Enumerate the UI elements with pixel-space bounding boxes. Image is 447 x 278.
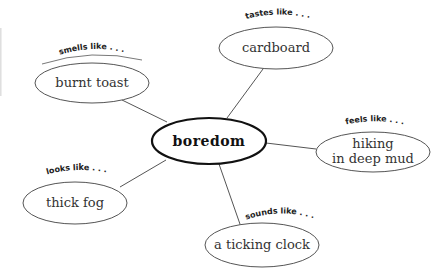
edge-tastes [227, 69, 263, 118]
prompt-sounds: sounds like . . . [244, 206, 316, 221]
node-label-looks: thick fog [46, 195, 104, 210]
node-label-feels-line2: in deep mud [332, 151, 414, 166]
edge-smells [122, 100, 167, 122]
node-tastes: tastes like . . . cardboard [219, 7, 333, 69]
node-smells: smells like . . . burnt toast [35, 42, 149, 103]
concept-web-diagram: boredom smells like . . . burnt toast ta… [0, 0, 447, 278]
node-label-feels-line1: hiking [352, 136, 393, 151]
prompt-smells: smells like . . . [58, 42, 126, 57]
edge-sounds [219, 164, 241, 227]
node-sounds: sounds like . . . a ticking clock [205, 206, 319, 267]
center-node: boredom [152, 118, 266, 164]
node-label-sounds: a ticking clock [214, 237, 310, 252]
node-label-tastes: cardboard [242, 40, 310, 55]
diagram-svg: boredom smells like . . . burnt toast ta… [0, 0, 447, 278]
edge-looks [120, 160, 166, 187]
edge-feels [266, 143, 316, 149]
prompt-tastes: tastes like . . . [244, 7, 311, 20]
prompt-looks: looks like . . . [45, 163, 108, 177]
center-label: boredom [173, 133, 246, 149]
prompt-feels: feels like . . . [345, 114, 406, 126]
node-feels: feels like . . . hiking in deep mud [316, 114, 430, 172]
node-looks: looks like . . . thick fog [23, 163, 127, 224]
node-label-smells: burnt toast [55, 75, 129, 90]
